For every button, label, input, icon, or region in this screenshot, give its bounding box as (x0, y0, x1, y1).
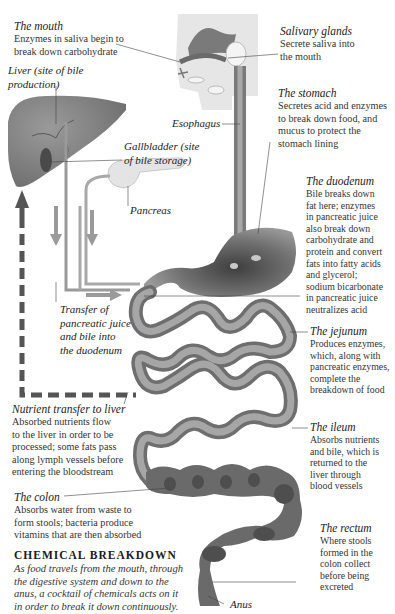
label-gallbladder: Gallbladder (site of bile storage) (124, 140, 199, 167)
ileum-desc: Absorbs nutrients and bile, which is ret… (310, 434, 395, 492)
stomach-desc: Secretes acid and enzymes to break down … (278, 100, 395, 150)
label-duodenum: The duodenum Bile breaks down fat here; … (306, 175, 395, 316)
label-colon: The colon Absorbs water from waste to fo… (14, 491, 184, 542)
label-pancreas: Pancreas (130, 204, 171, 218)
nutrient-transfer-arrow (15, 190, 136, 395)
mouth-desc: Enzymes in saliva begin to break down ca… (14, 33, 174, 58)
label-stomach: The stomach Secretes acid and enzymes to… (278, 87, 395, 150)
label-esophagus: Esophagus (172, 117, 220, 131)
section-intro: As food travels from the mouth, through … (14, 563, 244, 613)
ileum-title: The ileum (310, 421, 395, 434)
label-rectum: The rectum Where stools formed in the co… (320, 522, 395, 593)
mouth-title: The mouth (14, 20, 174, 33)
label-nutrient-transfer: Nutrient transfer to liver Absorbed nutr… (12, 403, 172, 479)
salivary-desc: Secrete saliva into the mouth (280, 38, 390, 63)
label-liver: Liver (site of bile production) (8, 64, 83, 91)
jejunum-title: The jejunum (310, 325, 395, 338)
stomach-title: The stomach (278, 87, 395, 100)
duodenum-title: The duodenum (306, 175, 395, 188)
down-arrow-icon (86, 210, 98, 246)
label-jejunum: The jejunum Produces enzymes, which, alo… (310, 325, 395, 396)
down-arrow-icon (50, 206, 62, 246)
jejunum-desc: Produces enzymes, which, along with panc… (310, 338, 395, 396)
stomach-shape (144, 228, 296, 300)
nutrient-desc: Absorbed nutrients flow to the liver in … (12, 416, 172, 479)
section-heading: CHEMICAL BREAKDOWN (14, 549, 177, 561)
label-ileum: The ileum Absorbs nutrients and bile, wh… (310, 421, 395, 492)
salivary-title: Salivary glands (280, 25, 390, 38)
label-salivary-glands: Salivary glands Secrete saliva into the … (280, 25, 390, 63)
pancreas-title: Pancreas (130, 204, 171, 216)
duodenum-desc: Bile breaks down fat here; enzymes in pa… (306, 188, 395, 316)
rectum-title: The rectum (320, 522, 395, 535)
colon-title: The colon (14, 491, 184, 504)
rectum-desc: Where stools formed in the colon collect… (320, 535, 395, 593)
label-transfer: Transfer of pancreatic juice and bile in… (60, 303, 131, 357)
gallbladder-title: Gallbladder (site of bile storage) (124, 140, 199, 166)
transfer-title: Transfer of pancreatic juice and bile in… (60, 303, 131, 356)
esophagus-title: Esophagus (172, 117, 220, 129)
label-mouth: The mouth Enzymes in saliva begin to bre… (14, 20, 174, 58)
nutrient-title: Nutrient transfer to liver (12, 403, 172, 416)
liver-title: Liver (site of bile production) (8, 64, 83, 90)
colon-desc: Absorbs water from waste to form stools;… (14, 504, 184, 542)
